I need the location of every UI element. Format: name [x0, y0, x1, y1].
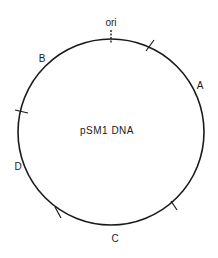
fragment-label-d: D: [14, 161, 21, 172]
fragment-label-c: C: [111, 233, 118, 244]
site-tick-2: [15, 110, 28, 113]
plasmid-title: pSM1 DNA: [80, 125, 134, 136]
site-tick-4: [171, 201, 177, 210]
plasmid-map: ori A B C D pSM1 DNA: [0, 0, 218, 258]
fragment-label-b: B: [39, 53, 46, 64]
fragment-label-a: A: [197, 80, 204, 91]
ori-label: ori: [105, 17, 116, 28]
